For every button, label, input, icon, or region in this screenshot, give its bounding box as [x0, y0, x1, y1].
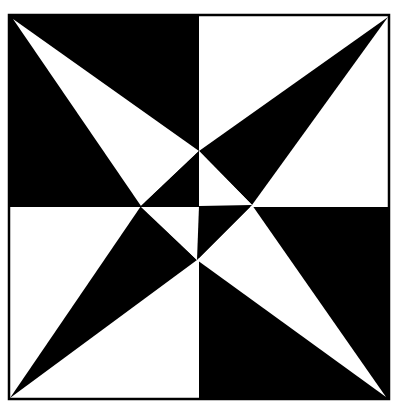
quilt-block-figure — [0, 0, 398, 417]
